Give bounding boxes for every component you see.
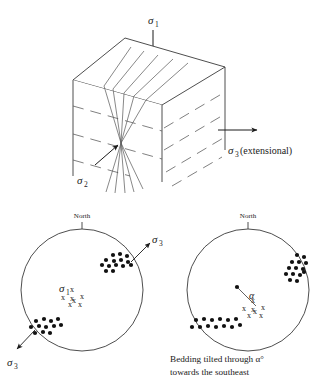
stereonet-circle-left xyxy=(21,229,143,351)
stereonet-tilted: North α xyxy=(170,212,309,377)
north-label-right: North xyxy=(240,212,257,220)
sigma3-label-block: σ xyxy=(228,144,234,156)
svg-text:x: x xyxy=(78,300,82,309)
tilt-caption-line2: towards the southeast xyxy=(170,367,250,377)
svg-text:x: x xyxy=(253,307,257,316)
sigma1-label: σ xyxy=(148,14,154,26)
sigma1-x-marks-right: xx xx xx x xyxy=(242,296,265,320)
sigma3-cluster-ne-left xyxy=(100,252,133,273)
bedding-lines-side xyxy=(164,92,225,186)
sigma1-subscript: 1 xyxy=(155,20,159,29)
sigma3-arrow-sw-left xyxy=(17,330,35,349)
sigma3-label-ne-left: σ xyxy=(152,233,158,245)
structural-geology-figure: σ 1 xyxy=(0,0,331,387)
sigma1-x-marks-left: xx xx xx x xyxy=(61,285,84,309)
svg-text:x: x xyxy=(242,304,246,313)
north-label-left: North xyxy=(74,212,91,220)
svg-text:x: x xyxy=(72,296,76,305)
sigma3-label-sw-left: σ xyxy=(7,356,13,368)
sigma3-extensional-note: (extensional) xyxy=(240,145,292,157)
block-diagram: σ 1 xyxy=(73,14,292,193)
svg-text:x: x xyxy=(259,311,263,320)
sigma2-subscript: 2 xyxy=(84,180,88,189)
svg-text:x: x xyxy=(70,285,74,294)
sigma3-subscript-ne-left: 3 xyxy=(159,239,163,248)
tilt-caption-line1: Bedding tilted through α° xyxy=(170,354,264,364)
svg-text:x: x xyxy=(251,296,255,305)
svg-text:x: x xyxy=(247,311,251,320)
sigma3-cluster-sw-right xyxy=(190,317,242,329)
sigma3-arrow-ne-left xyxy=(131,243,150,262)
sigma3-subscript-block: 3 xyxy=(235,150,239,159)
sigma3-subscript-sw-left: 3 xyxy=(14,362,18,371)
stereonet-untilted: North σ 3 σ 3 σ 1 xyxy=(7,212,163,371)
figure-canvas: σ 1 xyxy=(0,0,331,387)
stereonet-circle-right xyxy=(187,229,309,351)
sigma3-cluster-ne-right xyxy=(284,253,308,283)
sigma2-label: σ xyxy=(77,174,83,186)
sigma3-cluster-sw-left xyxy=(29,317,63,335)
svg-text:x: x xyxy=(61,293,65,302)
